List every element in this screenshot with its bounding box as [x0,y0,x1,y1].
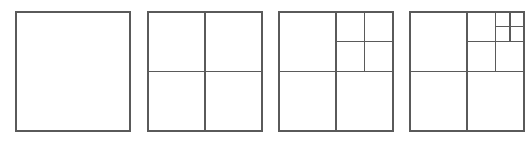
subdivision-diagram-0 [15,11,131,132]
subdivision-panel-0 [15,11,131,132]
subdivision-panel-1 [147,11,263,132]
square-outline [16,12,130,131]
subdivision-diagram-1 [147,11,263,132]
subdivision-diagram-2 [278,11,394,132]
recursive-subdivision-figure [0,0,527,143]
subdivision-panel-2 [278,11,394,132]
subdivision-panel-3 [409,11,525,132]
subdivision-diagram-3 [409,11,525,132]
